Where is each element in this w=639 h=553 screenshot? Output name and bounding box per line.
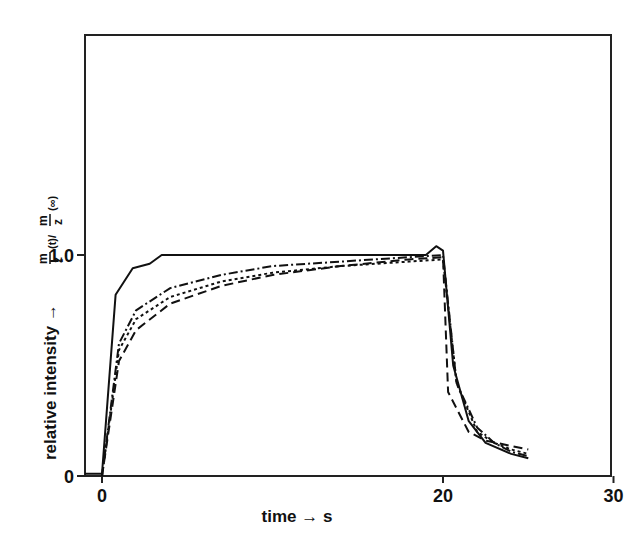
- data-series: [85, 246, 528, 476]
- series-dash-dot: [102, 255, 528, 476]
- chart: 02030 01.0 time → s relative intensity →…: [0, 0, 639, 553]
- svg-text:m: m: [36, 215, 50, 226]
- svg-text:z: z: [51, 257, 65, 263]
- svg-text:(t)/: (t)/: [46, 235, 58, 249]
- x-tick-label: 30: [603, 486, 623, 506]
- x-axis-label: time → s: [262, 507, 333, 526]
- svg-text:z: z: [51, 219, 65, 225]
- svg-text:(∞): (∞): [46, 195, 58, 211]
- x-axis-ticks: 02030: [97, 476, 624, 506]
- svg-text:m: m: [36, 253, 50, 264]
- x-tick-label: 20: [433, 486, 453, 506]
- y-axis-label-group: relative intensity → m z (t)/ m z (∞): [36, 195, 65, 460]
- x-tick-label: 0: [97, 486, 107, 506]
- y-axis-label: relative intensity →: [41, 304, 60, 460]
- y-tick-label: 0: [64, 467, 74, 487]
- series-solid: [85, 246, 528, 474]
